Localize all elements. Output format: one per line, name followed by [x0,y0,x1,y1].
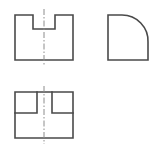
top-view-right-inner-rectangle [52,92,73,113]
engineering-drawing-sheet [0,0,161,151]
right-side-view [108,15,148,60]
drawing-canvas [0,0,161,151]
top-view-left-inner-rectangle [15,92,37,113]
top-view [15,86,73,144]
front-view [15,9,73,66]
right-side-view-outline [108,15,148,60]
